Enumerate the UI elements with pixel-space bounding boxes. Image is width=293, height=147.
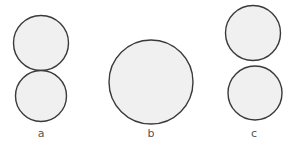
panel-c-circle-bottom [228,66,282,120]
panel-a-circle-top [14,16,69,71]
panel-label-b: b [131,127,171,140]
panel-b-circle-large [109,40,193,124]
panel-label-a: a [21,127,61,140]
panel-a-circle-bottom [16,71,67,122]
panel-label-c: c [234,127,274,140]
panel-b-shapes [109,40,193,124]
figure-canvas: a b c [0,0,293,147]
panel-c-circle-top [226,6,281,61]
panel-c-shapes [226,6,283,121]
panel-a-shapes [14,16,69,122]
circles-diagram [0,0,293,147]
